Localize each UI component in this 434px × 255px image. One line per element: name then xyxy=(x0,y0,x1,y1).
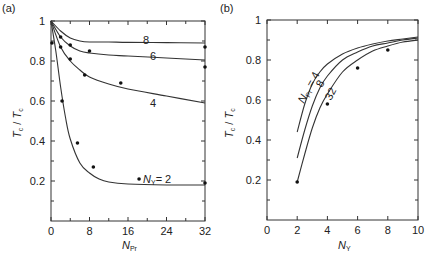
curve xyxy=(51,21,205,60)
data-points-a xyxy=(50,35,207,185)
data-point xyxy=(50,41,54,45)
y-tick-label: 0.6 xyxy=(30,95,45,107)
data-point xyxy=(203,45,207,49)
x-tick-label: 10 xyxy=(412,224,424,236)
x-tick-label: 16 xyxy=(122,225,134,237)
curve-label-8: 8 xyxy=(143,34,149,46)
y-tick-label: 0.4 xyxy=(246,134,261,146)
data-point xyxy=(356,66,360,70)
data-point xyxy=(88,49,92,53)
axis-ticks-b: 02468100.20.40.60.81 xyxy=(246,14,424,236)
data-point xyxy=(68,57,72,61)
data-point xyxy=(295,180,299,184)
curves-a xyxy=(51,21,205,185)
curve xyxy=(51,21,205,185)
data-point xyxy=(326,102,330,106)
x-axis-label-a: NPr xyxy=(122,239,138,252)
x-tick-label: 24 xyxy=(160,225,172,237)
data-point xyxy=(92,165,96,169)
data-point xyxy=(76,141,80,145)
y-tick-label: 1 xyxy=(39,15,45,27)
data-point xyxy=(203,181,207,185)
data-point xyxy=(59,45,63,49)
x-tick-label: 8 xyxy=(86,225,92,237)
curve xyxy=(51,21,205,103)
curve xyxy=(297,38,418,158)
data-point xyxy=(59,35,63,39)
plot-frame-a xyxy=(51,21,205,221)
y-axis-label-b: Tc / Tc xyxy=(223,108,236,138)
x-tick-label: 6 xyxy=(355,224,361,236)
curve xyxy=(297,40,418,182)
y-tick-label: 0.6 xyxy=(246,94,261,106)
y-tick-label: 0.8 xyxy=(30,55,45,67)
curves-b xyxy=(297,37,418,182)
x-axis-label-b: NY xyxy=(338,239,351,252)
data-point xyxy=(68,43,72,47)
curve-label-npr4: NPr = 4 xyxy=(295,70,322,106)
panel-b-label: (b) xyxy=(220,2,233,14)
y-tick-label: 0.2 xyxy=(246,174,261,186)
plot-frame-b xyxy=(267,20,418,220)
y-tick-label: 1 xyxy=(255,14,261,26)
panel-a: (a) 081624320.20.40.60.81 8 6 4 NY= 2 NP… xyxy=(2,2,211,252)
curve-label-4: 4 xyxy=(150,97,156,109)
x-tick-label: 32 xyxy=(199,225,211,237)
curve-label-ny2: NY= 2 xyxy=(143,173,171,186)
data-point xyxy=(119,81,123,85)
data-point xyxy=(203,65,207,69)
data-point xyxy=(137,177,141,181)
x-tick-label: 0 xyxy=(264,224,270,236)
y-axis-label-a: Tc / Tc xyxy=(11,108,24,138)
x-tick-label: 2 xyxy=(294,224,300,236)
x-tick-label: 4 xyxy=(324,224,330,236)
panel-b: (b) 02468100.20.40.60.81 NPr = 4 8 32 NY… xyxy=(220,2,424,252)
y-tick-label: 0.8 xyxy=(246,54,261,66)
axis-ticks-a: 081624320.20.40.60.81 xyxy=(30,15,211,237)
data-point xyxy=(60,99,64,103)
panel-a-label: (a) xyxy=(2,2,15,14)
x-tick-label: 8 xyxy=(385,224,391,236)
y-tick-label: 0.4 xyxy=(30,135,45,147)
curve-label-6: 6 xyxy=(150,50,156,62)
data-point xyxy=(386,48,390,52)
data-point xyxy=(83,73,87,77)
x-tick-label: 0 xyxy=(48,225,54,237)
y-tick-label: 0.2 xyxy=(30,175,45,187)
figure: (a) 081624320.20.40.60.81 8 6 4 NY= 2 NP… xyxy=(0,0,434,255)
